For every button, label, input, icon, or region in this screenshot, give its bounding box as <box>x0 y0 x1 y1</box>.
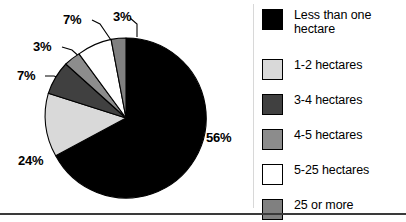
legend-label-25-or-more: 25 or more <box>294 198 353 213</box>
pie-label-7pct-left: 7% <box>17 68 35 83</box>
legend-item-less-than-one-hectare[interactable]: Less than one hectare <box>262 8 371 36</box>
legend-label-3-4-hectares: 3-4 hectares <box>294 93 362 108</box>
legend-divider <box>253 4 254 208</box>
legend-item-3-4-hectares[interactable]: 3-4 hectares <box>262 93 362 115</box>
legend-swatch-less-than-one-hectare <box>262 9 283 30</box>
legend-swatch-5-25-hectares <box>262 164 283 185</box>
legend-label-less-than-one-hectare: Less than one hectare <box>294 8 371 36</box>
pie-label-24pct: 24% <box>18 153 43 168</box>
pie-plot-area: 56% 24% 7% 3% 7% 3% <box>0 0 252 210</box>
chart-legend: Less than one hectare 1-2 hectares 3-4 h… <box>262 8 404 204</box>
legend-label-5-25-hectares: 5-25 hectares <box>294 163 369 178</box>
pie-label-7pct-top: 7% <box>63 12 81 27</box>
pie-chart-figure: 56% 24% 7% 3% 7% 3% Less than one hectar… <box>0 0 406 222</box>
pie-slices <box>45 38 206 198</box>
legend-label-4-5-hectares: 4-5 hectares <box>294 128 362 143</box>
pie-label-56pct: 56% <box>206 130 231 145</box>
legend-swatch-3-4-hectares <box>262 94 283 115</box>
bottom-rule <box>0 213 406 215</box>
legend-swatch-25-or-more <box>262 199 283 220</box>
legend-item-25-or-more[interactable]: 25 or more <box>262 198 353 220</box>
pie-label-3pct-left: 3% <box>33 39 51 54</box>
pie-svg <box>0 0 252 210</box>
legend-item-5-25-hectares[interactable]: 5-25 hectares <box>262 163 369 185</box>
legend-label-1-2-hectares: 1-2 hectares <box>294 58 362 73</box>
legend-item-4-5-hectares[interactable]: 4-5 hectares <box>262 128 362 150</box>
pie-label-3pct-top: 3% <box>113 9 131 24</box>
legend-item-1-2-hectares[interactable]: 1-2 hectares <box>262 58 362 80</box>
legend-swatch-1-2-hectares <box>262 59 283 80</box>
legend-swatch-4-5-hectares <box>262 129 283 150</box>
